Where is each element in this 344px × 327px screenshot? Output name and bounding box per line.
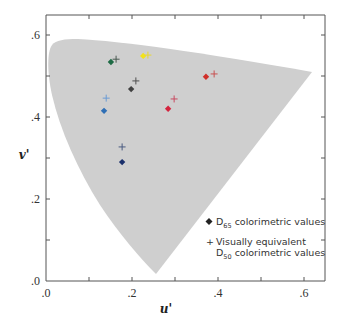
legend-entry-d50: + Visually equivalent D50 colorimetric v… <box>206 236 325 261</box>
x-tick-label: .0 <box>42 286 51 300</box>
y-tick-label: .6 <box>31 28 40 42</box>
x-tick-labels: .0 .2 .4 .6 <box>42 286 309 300</box>
chromaticity-chart: .0 .2 .4 .6 .0 .2 .4 .6 u' v' D65 colori… <box>0 0 344 327</box>
x-tick-label: .2 <box>128 286 137 300</box>
plus-marker-icon: + <box>206 236 214 247</box>
x-tick-label: .6 <box>300 286 309 300</box>
y-tick-label: .2 <box>31 192 40 206</box>
legend: D65 colorimetric values + Visually equiv… <box>206 216 326 261</box>
legend-label-d50-line1: Visually equivalent <box>216 236 306 247</box>
legend-entry-d65: D65 colorimetric values <box>206 216 326 230</box>
legend-label-d65: D65 colorimetric values <box>216 216 325 230</box>
y-tick-label: .0 <box>31 274 40 288</box>
diamond-marker-icon <box>206 218 213 225</box>
legend-label-d50-line2: D50 colorimetric values <box>216 247 325 261</box>
y-tick-label: .4 <box>31 110 40 124</box>
y-tick-labels: .0 .2 .4 .6 <box>31 28 40 288</box>
x-axis-title: u' <box>160 302 172 316</box>
y-axis-title: v' <box>19 148 30 162</box>
x-tick-label: .4 <box>214 286 223 300</box>
